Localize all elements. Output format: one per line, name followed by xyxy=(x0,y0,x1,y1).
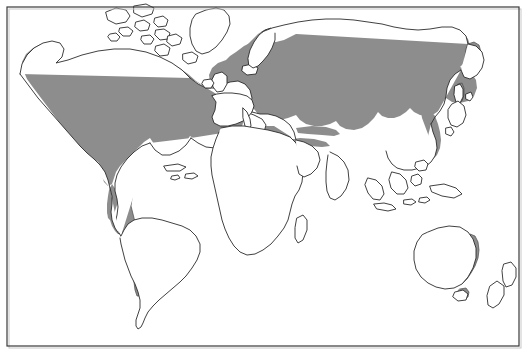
coast-tasmania xyxy=(453,290,468,301)
coast-ireland xyxy=(202,79,214,88)
coast-sakhalin-outline xyxy=(454,84,463,103)
coast-sulawesi xyxy=(411,174,422,186)
figure-root: World distribution map xyxy=(0,0,529,358)
world-map-figure xyxy=(0,0,529,358)
world-map-canvas xyxy=(0,0,529,358)
coast-philippines xyxy=(415,160,428,171)
